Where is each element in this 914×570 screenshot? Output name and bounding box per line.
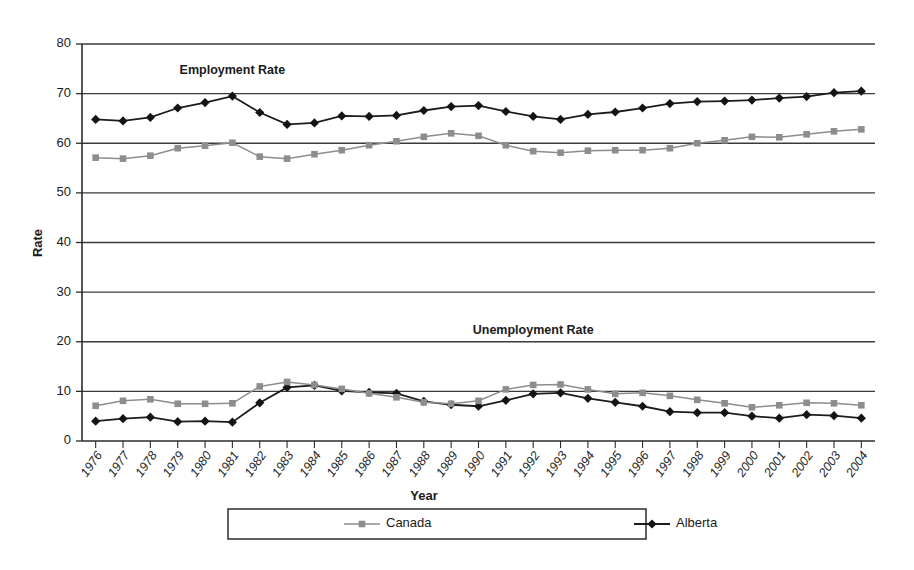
x-tick-label: 2004 <box>843 449 871 481</box>
x-tick-label: 1978 <box>132 449 159 480</box>
data-point <box>585 147 592 154</box>
y-axis-tick-marks <box>76 44 82 441</box>
gridlines <box>82 44 875 391</box>
data-point <box>829 88 838 97</box>
data-point <box>146 113 155 122</box>
data-point <box>475 133 482 140</box>
data-point <box>146 413 155 422</box>
data-point <box>448 400 455 407</box>
data-point <box>284 379 291 386</box>
data-point <box>857 414 866 423</box>
data-point <box>503 386 510 393</box>
chart-annotation-label: Employment Rate <box>180 63 286 77</box>
data-point <box>803 399 810 406</box>
data-point <box>557 149 564 156</box>
data-point <box>638 402 647 411</box>
data-point <box>256 383 263 390</box>
data-point <box>583 394 592 403</box>
x-tick-label: 1977 <box>105 448 133 480</box>
legend-marker-canada <box>359 521 366 528</box>
data-point <box>611 107 620 116</box>
data-point <box>557 381 564 388</box>
data-point <box>174 400 181 407</box>
chart-annotations: Employment RateUnemployment Rate <box>180 63 594 338</box>
data-point <box>91 115 100 124</box>
data-point <box>284 155 291 162</box>
data-point <box>503 142 510 149</box>
data-point <box>585 386 592 393</box>
data-point <box>200 98 209 107</box>
y-tick-label: 80 <box>57 35 71 50</box>
x-tick-label: 1998 <box>679 449 706 480</box>
data-point <box>421 399 428 406</box>
data-point <box>638 103 647 112</box>
x-tick-label: 1985 <box>324 449 351 480</box>
data-point <box>365 112 374 121</box>
data-point <box>338 147 345 154</box>
x-axis-tick-labels: 1976197719781979198019811982198319841985… <box>78 448 871 480</box>
data-point <box>393 138 400 145</box>
data-point <box>173 417 182 426</box>
y-tick-label: 10 <box>57 383 71 398</box>
x-tick-label: 1983 <box>269 449 296 480</box>
data-point <box>667 393 674 400</box>
data-point <box>665 99 674 108</box>
data-point <box>118 116 127 125</box>
data-point <box>720 96 729 105</box>
y-tick-label: 60 <box>57 135 71 150</box>
chart-legend: CanadaAlberta <box>228 509 718 539</box>
x-tick-label: 1982 <box>242 449 269 480</box>
data-point <box>282 120 291 129</box>
data-point <box>639 147 646 154</box>
data-point <box>749 404 756 411</box>
x-tick-label: 2001 <box>761 449 789 481</box>
data-point <box>665 407 674 416</box>
x-tick-label: 2002 <box>788 449 816 481</box>
data-point <box>720 408 729 417</box>
data-point <box>419 106 428 115</box>
data-point <box>831 400 838 407</box>
data-point <box>338 386 345 393</box>
data-point <box>448 130 455 137</box>
data-point <box>858 402 865 409</box>
data-point <box>694 397 701 404</box>
data-point <box>611 398 620 407</box>
x-tick-label: 1990 <box>461 449 488 480</box>
y-tick-label: 40 <box>57 234 71 249</box>
data-point <box>311 382 318 389</box>
x-axis-tick-marks <box>96 441 862 448</box>
data-series-layer <box>91 87 866 427</box>
data-point <box>228 92 237 101</box>
data-point <box>501 396 510 405</box>
data-point <box>693 408 702 417</box>
data-point <box>475 398 482 405</box>
x-tick-label: 2000 <box>733 449 761 481</box>
x-tick-label: 1979 <box>160 449 187 480</box>
data-point <box>421 133 428 140</box>
data-point <box>721 137 728 144</box>
employment-unemployment-rate-chart: 01020304050607080 1976197719781979198019… <box>0 0 914 570</box>
x-tick-label: 1981 <box>214 449 241 480</box>
data-point <box>721 400 728 407</box>
x-tick-label: 1984 <box>296 449 323 480</box>
data-point <box>667 145 674 152</box>
x-tick-label: 1980 <box>187 449 214 480</box>
y-tick-label: 50 <box>57 184 71 199</box>
x-tick-label: 1976 <box>78 449 105 480</box>
x-tick-label: 1996 <box>625 449 652 480</box>
data-point <box>530 148 537 155</box>
legend-marker-alberta <box>647 519 656 528</box>
data-point <box>118 414 127 423</box>
data-point <box>857 87 866 96</box>
data-point <box>92 154 99 161</box>
y-tick-label: 70 <box>57 85 71 100</box>
data-point <box>447 102 456 111</box>
data-point <box>747 412 756 421</box>
x-tick-label: 1999 <box>707 449 734 480</box>
data-point <box>775 414 784 423</box>
data-point <box>366 142 373 149</box>
data-point <box>639 390 646 397</box>
legend-label-canada: Canada <box>386 515 432 530</box>
x-tick-label: 1989 <box>433 449 460 480</box>
data-point <box>120 398 127 405</box>
